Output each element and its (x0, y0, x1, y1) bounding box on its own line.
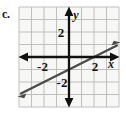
coordinate-plane-svg: -2 2 2 -2 y x (16, 4, 122, 110)
x-tick-label-negative-2: -2 (37, 59, 48, 74)
problem-letter-label: c. (2, 8, 10, 20)
graph-figure: c. (0, 0, 126, 114)
y-tick-label-positive-2: 2 (58, 25, 65, 40)
y-tick-label-negative-2: -2 (57, 75, 68, 90)
x-tick-label-positive-2: 2 (92, 59, 99, 74)
coordinate-plane: -2 2 2 -2 y x (16, 4, 122, 110)
x-axis-variable-label: x (107, 57, 114, 71)
y-axis-variable-label: y (71, 8, 79, 22)
